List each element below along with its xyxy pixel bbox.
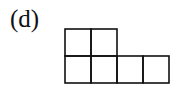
diagram-cell <box>65 29 91 56</box>
diagram-cell <box>91 29 117 56</box>
diagram-cell <box>117 56 143 83</box>
diagram-cell <box>91 56 117 83</box>
diagram-cell <box>65 56 91 83</box>
young-diagram <box>0 0 186 107</box>
diagram-cell <box>143 56 169 83</box>
